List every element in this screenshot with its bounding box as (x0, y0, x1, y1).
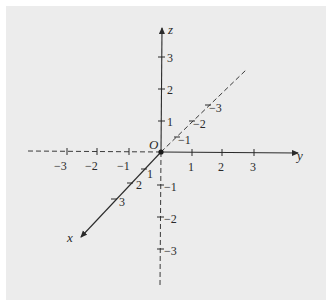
x-tick-label-neg2: −2 (193, 117, 206, 131)
z-axis-label: z (167, 22, 173, 37)
x-axis-negative-dashed (161, 70, 246, 152)
z-tick-label-neg2: −2 (164, 212, 177, 226)
z-axis-negative-dashed (160, 152, 161, 286)
coordinate-axes-diagram: 1 2 3 −1 −2 −3 y 1 2 3 −1 −2 −3 z (0, 0, 334, 307)
x-tick-label-3: 3 (119, 195, 125, 209)
origin-label: O (149, 137, 159, 152)
y-axis: 1 2 3 −1 −2 −3 y (28, 148, 303, 174)
y-axis-label: y (295, 148, 303, 163)
x-axis: 1 2 3 −1 −2 −3 x (66, 70, 246, 245)
y-tick-label-neg2: −2 (85, 159, 98, 173)
z-tick-label-3: 3 (167, 51, 173, 65)
z-tick-label-neg1: −1 (164, 180, 177, 194)
y-tick-label-2: 2 (218, 160, 224, 174)
x-tick-label-1: 1 (147, 167, 153, 181)
y-tick-label-neg3: −3 (54, 159, 67, 173)
origin-point (158, 149, 163, 154)
y-tick-label-neg1: −1 (117, 159, 130, 173)
x-axis-label: x (66, 230, 73, 245)
z-tick-label-1: 1 (167, 115, 173, 129)
y-tick-label-3: 3 (250, 160, 256, 174)
z-tick-label-2: 2 (167, 83, 173, 97)
y-tick-label-1: 1 (188, 160, 194, 174)
y-axis-negative-dashed (28, 151, 161, 152)
x-tick-label-neg1: −1 (178, 133, 191, 147)
z-tick-label-neg3: −3 (164, 244, 177, 258)
y-axis-positive (161, 152, 298, 153)
z-axis-positive (161, 28, 162, 152)
x-tick-label-neg3: −3 (209, 101, 222, 115)
x-tick-label-2: 2 (136, 178, 142, 192)
